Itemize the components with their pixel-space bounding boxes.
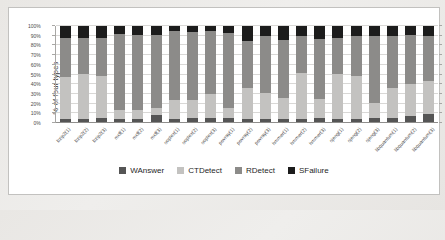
bar-segment-rdetect — [387, 36, 398, 88]
legend-label: WAnswer — [130, 166, 164, 175]
x-tick-label: sjeng(1) — [328, 126, 345, 143]
bar-segment-sfailure — [405, 26, 416, 35]
x-tick-label: povray(1) — [217, 126, 236, 146]
bar-sjeng-2 — [351, 26, 362, 123]
bar-segment-rdetect — [278, 40, 289, 98]
bar-segment-sfailure — [296, 26, 307, 36]
legend-swatch-icon — [177, 167, 184, 174]
bar-segment-rdetect — [332, 38, 343, 74]
legend-swatch-icon — [288, 167, 295, 174]
legend-swatch-icon — [235, 167, 242, 174]
bar-segment-rdetect — [296, 36, 307, 73]
bar-sjeng-1 — [332, 26, 343, 123]
bar-soplex-1 — [169, 26, 180, 123]
bar-segment-rdetect — [205, 31, 216, 94]
legend-swatch-icon — [119, 167, 126, 174]
y-tick-mark — [52, 122, 55, 123]
legend-item-rdetect: RDetect — [235, 166, 275, 175]
bar-segment-ctdetect — [132, 110, 143, 119]
y-tick-label: 100% — [28, 23, 41, 29]
y-tick-mark — [439, 93, 442, 94]
legend-label: CTDetect — [188, 166, 222, 175]
bar-segment-sfailure — [351, 26, 362, 36]
bar-segment-ctdetect — [296, 73, 307, 120]
legend: WAnswerCTDetectRDetectSFailure — [9, 166, 439, 175]
legend-item-ctdetect: CTDetect — [177, 166, 222, 175]
bar-segment-rdetect — [369, 36, 380, 103]
x-tick-label: sjeng(2) — [346, 126, 363, 143]
bar-segment-rdetect — [242, 41, 253, 89]
y-tick-label: 80% — [31, 42, 41, 48]
y-tick-label: 20% — [31, 101, 41, 107]
bar-segment-sfailure — [242, 26, 253, 41]
x-tick-label: hmmer(2) — [289, 126, 308, 146]
y-tick-mark — [52, 112, 55, 113]
x-tick-label: povray(3) — [253, 126, 272, 146]
x-tick-label: hmmer(3) — [307, 126, 326, 146]
bar-bzip2-1 — [60, 26, 71, 123]
bar-segment-sfailure — [369, 26, 380, 36]
legend-label: RDetect — [246, 166, 275, 175]
y-tick-mark — [52, 103, 55, 104]
legend-item-sfailure: SFailure — [288, 166, 329, 175]
bar-segment-rdetect — [260, 36, 271, 93]
bar-soplex-3 — [205, 26, 216, 123]
bar-segment-sfailure — [314, 26, 325, 39]
y-tick-label: 70% — [31, 52, 41, 58]
x-axis-line — [56, 122, 438, 123]
bar-segment-sfailure — [332, 26, 343, 38]
bar-segment-rdetect — [132, 35, 143, 111]
bar-segment-rdetect — [96, 38, 107, 77]
bar-hmmer-2 — [296, 26, 307, 123]
bar-segment-rdetect — [60, 38, 71, 78]
x-tick-label: mcf(3) — [148, 126, 162, 141]
y-tick-mark — [439, 64, 442, 65]
x-tick-label: hmmer(1) — [271, 126, 290, 146]
x-tick-label: bzip2(3) — [91, 126, 108, 143]
y-tick-mark — [52, 25, 55, 26]
bar-segment-ctdetect — [260, 93, 271, 119]
bar-segment-rdetect — [405, 35, 416, 84]
bar-segment-sfailure — [151, 26, 162, 35]
y-tick-label: 40% — [31, 81, 41, 87]
bar-segment-ctdetect — [205, 94, 216, 118]
bar-segment-ctdetect — [369, 103, 380, 119]
bar-segment-ctdetect — [278, 98, 289, 119]
y-tick-mark — [439, 54, 442, 55]
y-tick-mark — [439, 35, 442, 36]
bar-segment-ctdetect — [151, 108, 162, 116]
bar-segment-rdetect — [78, 38, 89, 74]
x-tick-label: mcf(2) — [130, 126, 144, 141]
y-tick-label: 90% — [31, 33, 41, 39]
y-tick-mark — [439, 44, 442, 45]
bar-segment-sfailure — [132, 26, 143, 35]
y-tick-mark — [52, 54, 55, 55]
bar-segment-rdetect — [314, 39, 325, 99]
y-tick-mark — [52, 93, 55, 94]
bar-povray-3 — [260, 26, 271, 123]
bar-povray-2 — [242, 26, 253, 123]
bar-segment-ctdetect — [96, 76, 107, 118]
bar-segment-rdetect — [114, 34, 125, 111]
bar-libquantum-2 — [405, 26, 416, 123]
y-tick-mark — [439, 74, 442, 75]
bar-segment-rdetect — [187, 32, 198, 100]
bar-segment-ctdetect — [169, 100, 180, 119]
y-tick-mark — [52, 74, 55, 75]
bar-segment-sfailure — [223, 26, 234, 33]
y-tick-label: 30% — [31, 91, 41, 97]
plot-area: 0%10%20%30%40%50%60%70%80%90%100%bzip2(1… — [56, 26, 438, 123]
bar-bzip2-2 — [78, 26, 89, 123]
bar-segment-sfailure — [260, 26, 271, 36]
bar-segment-ctdetect — [223, 108, 234, 119]
bar-mcf-1 — [114, 26, 125, 123]
bar-segment-sfailure — [96, 26, 107, 38]
bar-segment-rdetect — [223, 33, 234, 108]
chart-frame: % of four types 0%10%20%30%40%50%60%70%8… — [8, 7, 440, 195]
bar-sjeng-3 — [369, 26, 380, 123]
screenshot-root: { "figure": { "background": "#ffffff", "… — [0, 0, 445, 210]
bar-libquantum-3 — [423, 26, 434, 123]
bar-segment-rdetect — [151, 35, 162, 108]
x-tick-label: povray(2) — [235, 126, 254, 146]
bar-segment-rdetect — [351, 36, 362, 77]
